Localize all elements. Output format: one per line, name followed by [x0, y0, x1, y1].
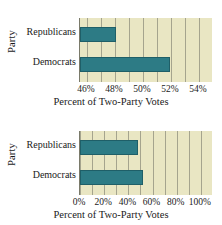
y-axis-title: Party [6, 130, 17, 180]
bar-series [80, 131, 212, 195]
plot-area [79, 131, 212, 195]
plot-area [79, 18, 212, 82]
x-tick-label: 54% [189, 84, 206, 94]
y-axis-category-labels: Republicans Democrats [16, 131, 76, 195]
bar-democrats [80, 57, 170, 72]
x-tick-label: 80% [167, 197, 184, 207]
bar-republicans [80, 140, 138, 155]
x-tick-label: 100% [189, 197, 211, 207]
bar-chart-expanded-scale: Party Republicans Democrats 46%48%50%52%… [0, 0, 222, 112]
x-tick-label: 20% [94, 197, 111, 207]
x-tick-label: 40% [119, 197, 136, 207]
y-category-republicans: Republicans [16, 26, 76, 37]
y-axis-category-labels: Republicans Democrats [16, 18, 76, 82]
bar-democrats [80, 170, 143, 185]
x-tick-label: 60% [143, 197, 160, 207]
y-category-republicans: Republicans [16, 139, 76, 150]
y-axis-title: Party [6, 17, 17, 67]
bar-series [80, 18, 212, 82]
x-tick-label: 50% [133, 84, 150, 94]
bar-republicans [80, 27, 116, 42]
bar-chart-full-scale: Party Republicans Democrats 0%20%40%60%8… [0, 113, 222, 225]
x-axis-title: Percent of Two-Party Votes [0, 96, 222, 107]
x-tick-label: 52% [161, 84, 178, 94]
y-category-democrats: Democrats [16, 169, 76, 180]
x-tick-label: 46% [77, 84, 94, 94]
y-category-democrats: Democrats [16, 56, 76, 67]
x-tick-label: 48% [105, 84, 122, 94]
x-axis-title: Percent of Two-Party Votes [0, 209, 222, 220]
x-tick-label: 0% [73, 197, 86, 207]
